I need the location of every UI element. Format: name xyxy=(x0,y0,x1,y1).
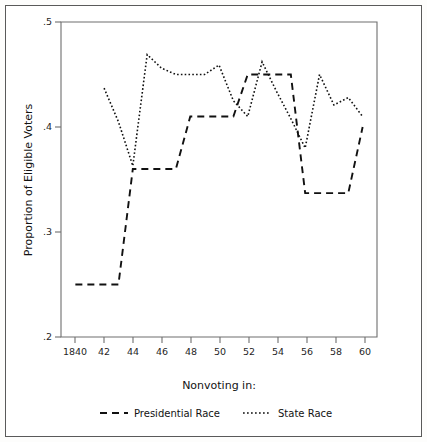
legend-entry-presidential-race[interactable]: Presidential Race xyxy=(100,408,220,419)
x-tick-label-1842: 42 xyxy=(98,346,110,357)
legend-title: Nonvoting in: xyxy=(182,379,256,392)
x-tick-label-1852: 52 xyxy=(243,346,255,357)
chart-svg: .5 .4 .3 .2 1840 42 44 46 48 50 52 54 xyxy=(0,0,427,442)
legend-entry-state-race[interactable]: State Race xyxy=(243,408,332,419)
y-tick-label-0.2: .2 xyxy=(43,331,52,342)
y-axis-title: Proportion of Eligible Voters xyxy=(22,103,35,256)
y-tick-label-0.4: .4 xyxy=(43,121,52,132)
x-tick-label-1850: 50 xyxy=(214,346,226,357)
x-tick-label-1856: 56 xyxy=(301,346,313,357)
figure-container: .5 .4 .3 .2 1840 42 44 46 48 50 52 54 xyxy=(0,0,427,442)
y-tick-label-0.5: .5 xyxy=(43,16,52,27)
x-axis-ticks: 1840 42 44 46 48 50 52 54 56 58 60 xyxy=(63,337,371,357)
legend-label-state-race: State Race xyxy=(278,408,332,419)
series-line-state-race xyxy=(104,55,363,166)
plot-axes xyxy=(61,22,377,337)
legend-label-presidential-race: Presidential Race xyxy=(134,408,220,419)
x-tick-label-1848: 48 xyxy=(185,346,197,357)
y-axis-ticks: .5 .4 .3 .2 xyxy=(43,16,61,342)
x-tick-label-1840: 1840 xyxy=(63,346,87,357)
x-tick-label-1860: 60 xyxy=(359,346,371,357)
x-tick-label-1846: 46 xyxy=(156,346,168,357)
plot-frame xyxy=(61,22,377,337)
x-tick-label-1858: 58 xyxy=(330,346,342,357)
y-tick-label-0.3: .3 xyxy=(43,226,52,237)
series-line-presidential-race xyxy=(75,75,362,285)
x-tick-label-1844: 44 xyxy=(127,346,139,357)
x-tick-label-1854: 54 xyxy=(272,346,284,357)
